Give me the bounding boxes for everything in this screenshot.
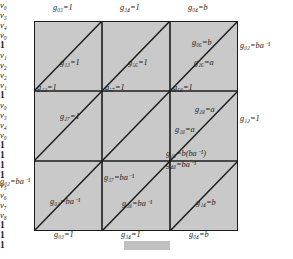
edge-label-top-g04: g₀₄=b (188, 4, 208, 12)
figure-canvas: g₀₃=1 g₃₄=1 g₀₄=b v₀ v₃ v₄ v₀ 1 v₁ v₂ g₀… (0, 0, 293, 259)
figure-caption (0, 240, 293, 250)
edge-label-g57: g₅₇=1 (105, 84, 125, 92)
edge-label-top-g03: g₀₃=1 (53, 4, 73, 12)
edge-label-g13: g₁₃=1 (60, 59, 80, 67)
vertex-label-top-v0: v₀ (0, 0, 293, 10)
edge-label-right-g12: g₁₂=1 (240, 115, 260, 123)
edge-label-top-g34: g₃₄=1 (120, 4, 140, 12)
edge-label-g27: g₂₇=1 (60, 113, 80, 121)
edge-label-g37: g₃₇=ba⁻¹ (104, 174, 134, 182)
edge-label-g06: g₀₆=b (192, 39, 212, 47)
edge-label-left-g02: g₀₂=ba⁻¹ (0, 178, 30, 186)
edge-label-bottom-g04: g₀₄=b (189, 231, 209, 239)
edge-label-g56: g₅₆=1 (128, 59, 148, 67)
edge-label-g26: g₂₆=a (194, 59, 214, 67)
edge-label-g18: g₁₈=a (175, 126, 195, 134)
caption-redaction (124, 241, 170, 250)
edge-label-g68: g₆₈=1 (173, 84, 193, 92)
triangle-label-r2c2: 1 (0, 230, 293, 240)
edge-label-bottom-g03: g₀₃=1 (54, 231, 74, 239)
edge-label-g48: g₄₈=ba⁻¹ (166, 161, 196, 169)
vertex-label-top-v3: v₃ (0, 10, 293, 20)
edge-label-g38: g₃₈=ba⁻¹ (122, 200, 152, 208)
edge-label-g28: g₂₈=a (195, 106, 215, 114)
edge-label-g02-interior: g₀₂=ba⁻¹ (50, 198, 80, 206)
edge-label-bottom-g34: g₃₄=1 (121, 231, 141, 239)
edge-label-right-g02: g₀₂=ba⁻¹ (240, 42, 270, 50)
edge-label-g12-interior: g₁₂=1 (37, 84, 57, 92)
edge-label-g14: g₁₄=b (196, 199, 216, 207)
edge-label-g18b: g₁₈=b(ba⁻¹) (166, 150, 206, 158)
